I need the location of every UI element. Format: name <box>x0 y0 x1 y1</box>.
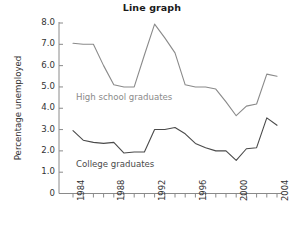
x-tick-label: 1996 <box>199 179 207 200</box>
y-tick-label: 8.0 <box>28 18 55 28</box>
line-chart-figure: Line graph Percentage unemployed 01.02.0… <box>0 0 290 230</box>
chart-title: Line graph <box>0 2 290 13</box>
x-tick-label: 1992 <box>158 179 166 200</box>
series-label-college-graduates: College graduates <box>76 160 154 169</box>
y-tick-label-text: 5.0 <box>31 82 55 91</box>
y-tick-label-text: 2.0 <box>31 146 55 155</box>
y-axis-ticks <box>59 23 63 194</box>
x-tick-label: 2000 <box>240 179 248 200</box>
y-axis-title: Percentage unemployed <box>13 28 23 188</box>
y-tick-label: 7.0 <box>28 39 55 49</box>
y-tick-label-text: 0 <box>31 189 55 198</box>
x-tick-label: 1988 <box>117 179 125 200</box>
y-tick-label: 6.0 <box>28 61 55 71</box>
y-tick-label: 3.0 <box>28 125 55 135</box>
y-tick-label-text: 7.0 <box>31 39 55 48</box>
y-tick-label-text: 3.0 <box>31 125 55 134</box>
y-tick-label: 5.0 <box>28 82 55 92</box>
series-line-college-graduates <box>73 118 277 161</box>
series-label-high-school-graduates: High school graduates <box>76 93 172 102</box>
y-tick-label: 2.0 <box>28 146 55 156</box>
y-tick-label: 1.0 <box>28 167 55 177</box>
y-tick-label: 0 <box>28 189 55 199</box>
x-tick-label: 2004 <box>281 179 289 200</box>
y-tick-label-text: 6.0 <box>31 61 55 70</box>
y-tick-label: 4.0 <box>28 103 55 113</box>
y-tick-label-text: 8.0 <box>31 18 55 27</box>
x-tick-label: 1984 <box>77 179 85 200</box>
y-tick-label-text: 1.0 <box>31 167 55 176</box>
y-tick-label-text: 4.0 <box>31 103 55 112</box>
